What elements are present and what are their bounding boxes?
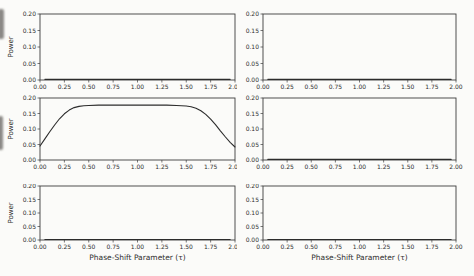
y-tick-label: 0.00 — [23, 76, 37, 83]
y-tick-label: 0.15 — [23, 196, 37, 203]
subplot-top-right: 0.000.250.500.751.001.251.501.752.000.00… — [237, 0, 474, 92]
x-tick-label: 2.00 — [449, 243, 463, 250]
subplot-middle-left: 0.000.250.500.751.001.251.501.752.000.00… — [0, 92, 237, 184]
x-tick-label: 0.00 — [33, 243, 47, 250]
x-tick-label: 1.25 — [155, 163, 169, 170]
x-tick-label: 0.75 — [106, 243, 120, 250]
subplot-svg: 0.000.250.500.751.001.251.501.752.000.00… — [237, 0, 474, 92]
y-axis-title: Power — [7, 36, 15, 57]
x-tick-label: 0.00 — [256, 243, 270, 250]
y-tick-label: 0.10 — [23, 209, 37, 216]
y-axis-title: Power — [7, 202, 15, 223]
y-tick-label: 0.10 — [246, 43, 260, 50]
y-tick-label: 0.10 — [23, 43, 37, 50]
y-tick-label: 0.15 — [246, 110, 260, 117]
y-tick-label: 0.00 — [246, 236, 260, 243]
y-tick-label: 0.00 — [246, 76, 260, 83]
x-tick-label: 1.75 — [204, 83, 218, 90]
y-tick-label: 0.05 — [23, 223, 37, 230]
x-tick-label: 1.75 — [204, 163, 218, 170]
x-tick-label: 0.75 — [106, 83, 120, 90]
y-tick-label: 0.05 — [246, 60, 260, 67]
x-tick-label: 0.50 — [82, 243, 96, 250]
figure-canvas: 0.000.250.500.751.001.251.501.752.000.00… — [0, 0, 474, 276]
y-axis-title: Power — [7, 118, 15, 139]
x-tick-label: 0.25 — [58, 163, 72, 170]
x-axis-title: Phase-Shift Parameter (τ) — [89, 253, 185, 262]
x-tick-label: 0.50 — [305, 243, 319, 250]
axes-frame — [263, 186, 456, 240]
x-tick-label: 1.25 — [155, 83, 169, 90]
subplot-bottom-right: 0.000.250.500.751.001.251.501.752.000.00… — [237, 184, 474, 276]
y-tick-label: 0.15 — [246, 27, 260, 34]
x-tick-label: 0.50 — [305, 163, 319, 170]
x-tick-label: 1.25 — [155, 243, 169, 250]
y-tick-label: 0.05 — [246, 223, 260, 230]
y-tick-label: 0.00 — [23, 236, 37, 243]
x-tick-label: 0.75 — [106, 163, 120, 170]
subplot-svg: 0.000.250.500.751.001.251.501.752.000.00… — [0, 92, 237, 184]
x-tick-label: 2.00 — [228, 243, 237, 250]
y-tick-label: 0.00 — [246, 156, 260, 163]
x-tick-label: 2.00 — [228, 83, 237, 90]
x-tick-label: 1.50 — [401, 83, 415, 90]
axes-frame — [40, 186, 235, 240]
x-tick-label: 1.50 — [180, 83, 194, 90]
axes-frame — [40, 14, 235, 80]
y-tick-label: 0.00 — [23, 156, 37, 163]
x-tick-label: 2.00 — [228, 163, 237, 170]
x-tick-label: 0.00 — [256, 83, 270, 90]
x-tick-label: 0.25 — [58, 83, 72, 90]
x-tick-label: 1.50 — [180, 243, 194, 250]
x-tick-label: 0.75 — [329, 243, 343, 250]
x-tick-label: 2.00 — [449, 83, 463, 90]
x-tick-label: 2.00 — [449, 163, 463, 170]
x-tick-label: 0.50 — [82, 83, 96, 90]
y-tick-label: 0.15 — [246, 196, 260, 203]
scan-artifact — [0, 9, 4, 39]
x-tick-label: 1.50 — [180, 163, 194, 170]
x-tick-label: 1.50 — [401, 163, 415, 170]
x-tick-label: 1.00 — [131, 163, 145, 170]
x-tick-label: 0.00 — [33, 163, 47, 170]
y-tick-label: 0.15 — [23, 27, 37, 34]
y-tick-label: 0.10 — [23, 125, 37, 132]
subplot-svg: 0.000.250.500.751.001.251.501.752.000.00… — [0, 0, 237, 92]
x-tick-label: 0.25 — [280, 163, 294, 170]
y-tick-label: 0.20 — [23, 184, 37, 189]
y-tick-label: 0.15 — [23, 110, 37, 117]
subplot-grid: 0.000.250.500.751.001.251.501.752.000.00… — [0, 0, 474, 276]
subplot-svg: 0.000.250.500.751.001.251.501.752.000.00… — [237, 92, 474, 184]
x-tick-label: 0.75 — [329, 83, 343, 90]
subplot-bottom-left: 0.000.250.500.751.001.251.501.752.000.00… — [0, 184, 237, 276]
y-tick-label: 0.20 — [246, 184, 260, 189]
series-line-power — [40, 105, 235, 147]
x-tick-label: 0.25 — [58, 243, 72, 250]
x-tick-label: 0.50 — [305, 83, 319, 90]
axes-frame — [263, 98, 456, 160]
y-tick-label: 0.10 — [246, 125, 260, 132]
x-axis-title: Phase-Shift Parameter (τ) — [311, 253, 407, 262]
y-tick-label: 0.05 — [246, 141, 260, 148]
subplot-top-left: 0.000.250.500.751.001.251.501.752.000.00… — [0, 0, 237, 92]
x-tick-label: 0.00 — [256, 163, 270, 170]
y-tick-label: 0.10 — [246, 209, 260, 216]
x-tick-label: 0.75 — [329, 163, 343, 170]
y-tick-label: 0.20 — [246, 10, 260, 17]
axes-frame — [40, 98, 235, 160]
x-tick-label: 1.25 — [377, 243, 391, 250]
x-tick-label: 1.00 — [131, 83, 145, 90]
x-tick-label: 1.75 — [425, 163, 439, 170]
y-tick-label: 0.05 — [23, 60, 37, 67]
axes-frame — [263, 14, 456, 80]
x-tick-label: 0.25 — [280, 83, 294, 90]
x-tick-label: 1.00 — [131, 243, 145, 250]
x-tick-label: 1.25 — [377, 163, 391, 170]
x-tick-label: 0.50 — [82, 163, 96, 170]
x-tick-label: 0.25 — [280, 243, 294, 250]
x-tick-label: 1.25 — [377, 83, 391, 90]
x-tick-label: 1.00 — [353, 163, 367, 170]
x-tick-label: 1.50 — [401, 243, 415, 250]
x-tick-label: 0.00 — [33, 83, 47, 90]
subplot-svg: 0.000.250.500.751.001.251.501.752.000.00… — [0, 184, 237, 276]
